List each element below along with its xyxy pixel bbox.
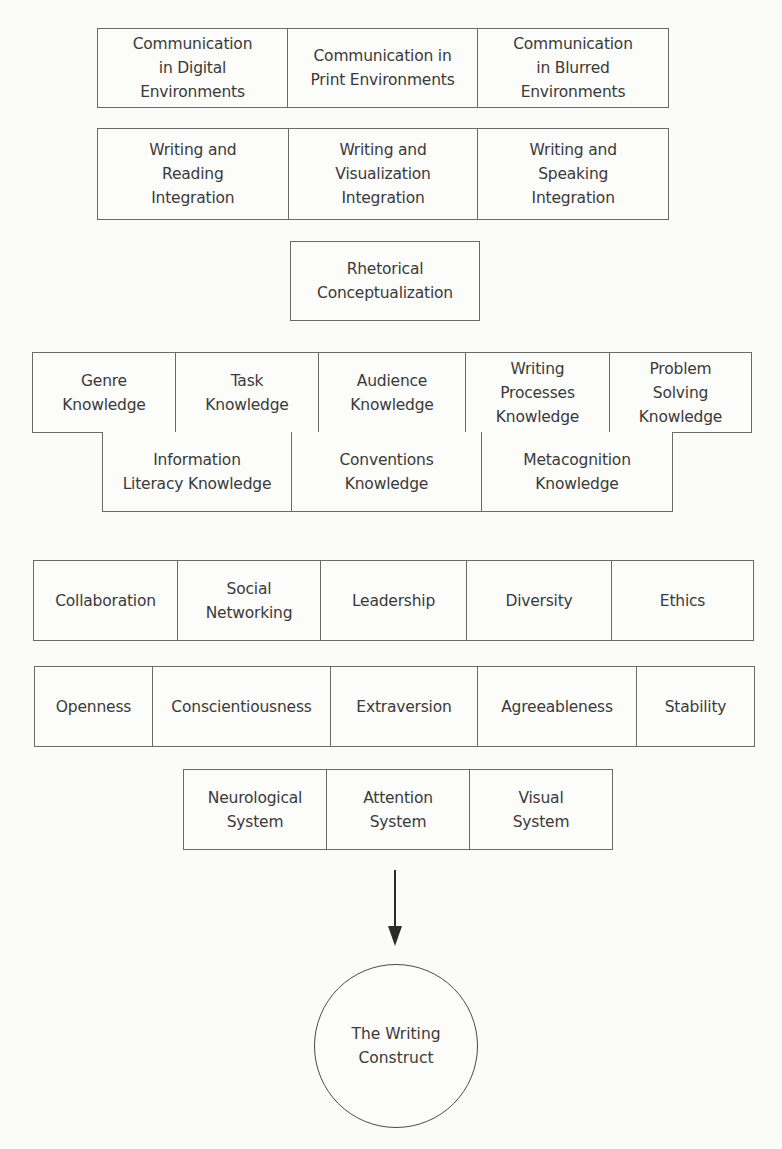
box-neurological-system: Neurological System — [184, 770, 327, 849]
arrow-head-icon — [388, 926, 402, 946]
box-diversity: Diversity — [467, 561, 612, 640]
writing-construct-circle: The Writing Construct — [314, 964, 478, 1128]
box-genre-knowledge: Genre Knowledge — [33, 353, 176, 432]
box-social-networking: Social Networking — [178, 561, 321, 640]
box-task-knowledge: Task Knowledge — [176, 353, 319, 432]
box-openness: Openness — [35, 667, 153, 746]
knowledge-row-1: Genre Knowledge Task Knowledge Audience … — [32, 352, 752, 433]
box-stability: Stability — [637, 667, 754, 746]
cognitive-systems-row: Neurological System Attention System Vis… — [183, 769, 613, 850]
down-arrow-icon — [394, 870, 396, 928]
box-conventions-knowledge: Conventions Knowledge — [292, 432, 482, 511]
box-writing-processes-knowledge: Writing Processes Knowledge — [466, 353, 610, 432]
box-communication-digital: Communication in Digital Environments — [98, 29, 288, 107]
social-row: Collaboration Social Networking Leadersh… — [33, 560, 754, 641]
box-rhetorical-conceptualization: Rhetorical Conceptualization — [291, 242, 479, 320]
box-writing-visualization-integration: Writing and Visualization Integration — [289, 129, 479, 219]
box-metacognition-knowledge: Metacognition Knowledge — [482, 432, 672, 511]
rhetorical-conceptualization-row: Rhetorical Conceptualization — [290, 241, 480, 321]
box-agreeableness: Agreeableness — [478, 667, 637, 746]
box-communication-print: Communication in Print Environments — [288, 29, 478, 107]
box-attention-system: Attention System — [327, 770, 470, 849]
box-visual-system: Visual System — [470, 770, 612, 849]
box-extraversion: Extraversion — [331, 667, 478, 746]
box-problem-solving-knowledge: Problem Solving Knowledge — [610, 353, 751, 432]
box-leadership: Leadership — [321, 561, 467, 640]
knowledge-row-2: Information Literacy Knowledge Conventio… — [102, 432, 673, 512]
box-communication-blurred: Communication in Blurred Environments — [478, 29, 668, 107]
box-writing-speaking-integration: Writing and Speaking Integration — [478, 129, 668, 219]
writing-construct-label: The Writing Construct — [351, 1022, 440, 1070]
box-collaboration: Collaboration — [34, 561, 178, 640]
communication-environments-row: Communication in Digital Environments Co… — [97, 28, 669, 108]
box-audience-knowledge: Audience Knowledge — [319, 353, 466, 432]
integration-row: Writing and Reading Integration Writing … — [97, 128, 669, 220]
personality-row: Openness Conscientiousness Extraversion … — [34, 666, 755, 747]
box-information-literacy-knowledge: Information Literacy Knowledge — [103, 432, 292, 511]
box-writing-reading-integration: Writing and Reading Integration — [98, 129, 289, 219]
box-conscientiousness: Conscientiousness — [153, 667, 331, 746]
box-ethics: Ethics — [612, 561, 753, 640]
